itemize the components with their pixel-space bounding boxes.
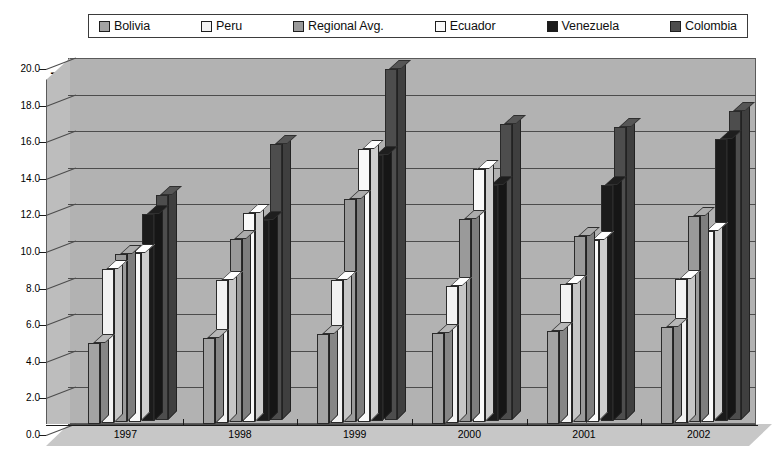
y-tick-mark xyxy=(39,252,46,253)
bar-face xyxy=(203,338,215,424)
bar-side xyxy=(141,244,150,421)
bar-side xyxy=(444,324,453,425)
bar-side xyxy=(370,140,379,422)
bar-side xyxy=(586,227,595,423)
bar-face xyxy=(547,331,559,424)
bar xyxy=(547,331,559,424)
x-tick-label: 1998 xyxy=(200,428,280,440)
legend-item-regional-avg: Regional Avg. xyxy=(293,19,384,33)
bar-side xyxy=(343,271,352,423)
bar-side xyxy=(498,176,507,421)
bar-side xyxy=(599,231,608,421)
legend-item-venezuela: Venezuela xyxy=(547,19,620,33)
bar-side xyxy=(114,260,123,423)
bar-side xyxy=(485,160,494,422)
bar-side xyxy=(471,210,480,422)
bar-side xyxy=(242,230,251,422)
y-tick-mark xyxy=(39,325,46,326)
y-tick-label: 10.0 xyxy=(21,246,40,257)
y-tick-label: 14.0 xyxy=(21,173,40,184)
legend-swatch-venezuela xyxy=(547,21,558,32)
x-tick-mark xyxy=(641,419,642,426)
plot-area xyxy=(46,50,772,425)
bar-side xyxy=(512,115,521,420)
chart-legend: Bolivia Peru Regional Avg. Ecuador Venez… xyxy=(88,14,748,38)
x-tick-mark xyxy=(183,419,184,426)
y-tick-label: 16.0 xyxy=(21,136,40,147)
x-tick-mark xyxy=(527,419,528,426)
legend-label-colombia: Colombia xyxy=(685,19,737,33)
bar-face xyxy=(432,333,444,425)
y-tick-label: 18.0 xyxy=(21,100,40,111)
x-tick-mark xyxy=(412,419,413,426)
bar-side xyxy=(458,277,467,423)
bar-side xyxy=(397,60,406,420)
y-tick-mark xyxy=(39,398,46,399)
y-tick-mark xyxy=(39,69,46,70)
bar-side xyxy=(687,270,696,424)
bar xyxy=(432,333,444,425)
legend-label-venezuela: Venezuela xyxy=(562,19,620,33)
bar-side xyxy=(626,118,635,420)
y-tick-mark xyxy=(39,142,46,143)
bar-side xyxy=(613,176,622,421)
bar-side xyxy=(154,205,163,421)
bar-side xyxy=(168,186,177,420)
y-tick-mark xyxy=(39,179,46,180)
bar-side xyxy=(228,271,237,423)
bar-side xyxy=(356,190,365,422)
y-tick-mark xyxy=(39,362,46,363)
y-tick-label: 2.0 xyxy=(26,392,40,403)
bar xyxy=(661,327,673,424)
bar-side xyxy=(383,146,392,420)
bar-side xyxy=(559,322,568,424)
bar-side xyxy=(572,275,581,423)
legend-item-bolivia: Bolivia xyxy=(99,19,150,33)
x-axis-line xyxy=(46,425,758,426)
y-tick-label: 4.0 xyxy=(26,356,40,367)
y-tick-label: 0.0 xyxy=(26,429,40,440)
bar xyxy=(88,343,100,424)
legend-swatch-ecuador xyxy=(435,21,446,32)
y-tick-mark xyxy=(39,289,46,290)
x-tick-label: 2001 xyxy=(544,428,624,440)
legend-label-bolivia: Bolivia xyxy=(114,19,150,33)
bar-side xyxy=(215,329,224,424)
y-tick-mark xyxy=(39,435,46,436)
bar-face xyxy=(88,343,100,424)
legend-swatch-regional-avg xyxy=(293,21,304,32)
bar-side xyxy=(329,325,338,424)
legend-swatch-bolivia xyxy=(99,21,110,32)
bar-side xyxy=(100,334,109,424)
bar-face xyxy=(661,327,673,424)
bar xyxy=(203,338,215,424)
bar-side xyxy=(282,135,291,420)
y-tick-label: 8.0 xyxy=(26,283,40,294)
legend-swatch-colombia xyxy=(670,21,681,32)
bar-side xyxy=(255,204,264,422)
bar-face xyxy=(317,334,329,424)
bar-side xyxy=(714,222,723,421)
bar-side xyxy=(673,318,682,424)
legend-item-ecuador: Ecuador xyxy=(435,19,496,33)
unemployment-bar-chart: Bolivia Peru Regional Avg. Ecuador Venez… xyxy=(0,0,774,450)
legend-label-peru: Peru xyxy=(216,19,242,33)
x-tick-label: 1997 xyxy=(85,428,165,440)
x-tick-label: 2000 xyxy=(429,428,509,440)
y-tick-mark xyxy=(39,215,46,216)
y-tick-label: 6.0 xyxy=(26,319,40,330)
legend-label-regional-avg: Regional Avg. xyxy=(308,19,384,33)
legend-label-ecuador: Ecuador xyxy=(450,19,496,33)
legend-item-colombia: Colombia xyxy=(670,19,737,33)
x-tick-label: 2002 xyxy=(659,428,739,440)
legend-item-peru: Peru xyxy=(201,19,242,33)
x-tick-mark xyxy=(297,419,298,426)
bar-side xyxy=(741,102,750,420)
bar-side xyxy=(269,211,278,421)
y-tick-label: 20.0 xyxy=(21,63,40,74)
bar-side xyxy=(127,245,136,422)
y-tick-label: 12.0 xyxy=(21,209,40,220)
x-tick-label: 1999 xyxy=(315,428,395,440)
bar-side xyxy=(700,207,709,423)
legend-swatch-peru xyxy=(201,21,212,32)
